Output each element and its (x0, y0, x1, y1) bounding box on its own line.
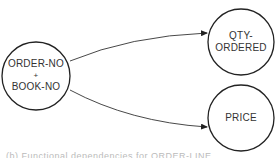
node-order-no-text: ORDER-NO (2, 58, 70, 70)
node-price-text: PRICE (208, 112, 274, 124)
node-book-no-text: BOOK-NO (2, 81, 70, 93)
node-qty-text: QTY- (208, 30, 274, 42)
node-price-label: PRICE (208, 112, 274, 124)
node-order-book-label: ORDER-NO + BOOK-NO (2, 58, 70, 93)
edge-key-to-qty-arrow (70, 33, 207, 61)
edge-key-to-price-arrow (70, 90, 207, 127)
node-ordered-text: ORDERED (208, 42, 274, 54)
figure-caption: (b) Functional dependencies for ORDER-LI… (6, 151, 212, 158)
node-qty-ordered-label: QTY- ORDERED (208, 30, 274, 54)
node-plus-text: + (2, 70, 70, 81)
